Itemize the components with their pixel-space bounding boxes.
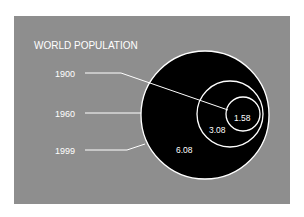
value-label-1900: 1.58: [234, 113, 251, 123]
year-label-1900: 1900: [55, 69, 75, 79]
value-label-1960: 3.08: [209, 125, 226, 135]
population-diagram: WORLD POPULATION 1900 1960 1999 1.58 3.0…: [0, 0, 304, 217]
chart-title: WORLD POPULATION: [34, 40, 138, 51]
value-label-1999: 6.08: [176, 145, 193, 155]
year-label-1960: 1960: [55, 109, 75, 119]
year-label-1999: 1999: [55, 146, 75, 156]
leader-line-1999: [85, 144, 145, 150]
